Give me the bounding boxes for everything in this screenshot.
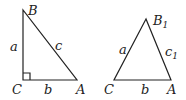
side-label-c: c	[55, 38, 63, 53]
vertex-label-B1: B1	[152, 13, 168, 30]
vertex-label-A: A	[75, 82, 85, 97]
right-angle-marker	[23, 73, 30, 80]
triangle-diagram: B a c C b A B1 a c1 C b A	[0, 0, 186, 100]
side-label-c1: c1	[165, 44, 178, 61]
side-label-a: a	[10, 39, 18, 54]
vertex-label-C: C	[12, 82, 22, 97]
vertex-label-C: C	[104, 82, 114, 97]
left-triangle-outline	[23, 10, 77, 80]
right-triangle: B1 a c1 C b A	[104, 13, 178, 97]
vertex-label-A: A	[166, 82, 176, 97]
side-label-b: b	[44, 82, 52, 97]
left-triangle: B a c C b A	[10, 3, 85, 97]
vertex-label-B: B	[27, 3, 38, 18]
side-label-b: b	[141, 82, 149, 97]
side-label-a: a	[119, 42, 127, 57]
